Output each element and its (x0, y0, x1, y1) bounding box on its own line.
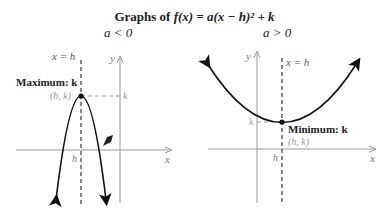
cursor-icon (103, 135, 113, 146)
right-x-label: x (369, 152, 375, 164)
right-minimum-label: Minimum: k (288, 123, 348, 135)
right-y-label: y (245, 50, 251, 62)
left-y-label: y (109, 52, 115, 64)
left-vertex-label: (h, k) (50, 90, 72, 102)
left-h-label: h (72, 153, 77, 164)
left-graph: x = h y x Maximum: k (h, k) k h (16, 50, 170, 205)
right-vertex-point (279, 119, 284, 124)
left-k-label: k (123, 90, 128, 101)
right-asymptote-label: x = h (285, 56, 310, 68)
right-graph: y x = h x Minimum: k (h, k) k h (207, 50, 375, 205)
parabola-graphs: x = h y x Maximum: k (h, k) k h y x = h … (0, 0, 389, 217)
left-x-label: x (164, 153, 170, 165)
right-vertex-label: (h, k) (288, 136, 310, 148)
left-maximum-label: Maximum: k (16, 76, 78, 88)
right-k-label: k (249, 116, 254, 127)
right-parabola (207, 63, 357, 123)
left-asymptote-label: x = h (51, 50, 76, 62)
right-h-label: h (273, 152, 278, 163)
left-vertex-point (78, 93, 83, 98)
